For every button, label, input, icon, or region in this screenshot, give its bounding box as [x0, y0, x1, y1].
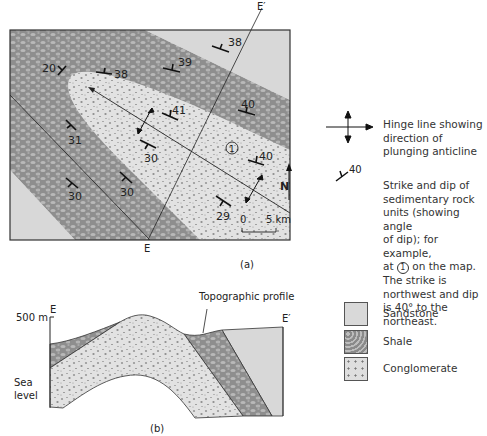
svg-text:30: 30: [144, 152, 158, 165]
map-caption: (a): [240, 259, 254, 270]
svg-text:29: 29: [216, 210, 230, 223]
legend-line: northwest and dip: [383, 288, 487, 302]
location-marker-inline: 1: [397, 262, 409, 274]
strike-dip-legend-icon: [336, 171, 348, 181]
shale-swatch: [344, 330, 368, 354]
svg-text:38: 38: [228, 36, 242, 49]
svg-text:30: 30: [68, 190, 82, 203]
strike-dip-legend-value: 40: [349, 164, 362, 175]
location-marker-label: 1: [229, 144, 235, 154]
sandstone-swatch: [344, 302, 368, 326]
legend-line: The strike is: [383, 274, 487, 288]
conglomerate-swatch: [344, 357, 368, 381]
legend-line: sedimentary rock: [383, 193, 487, 207]
legend-line: at 1 on the map.: [383, 260, 487, 274]
hinge-legend-icon: [326, 111, 373, 143]
scale-end: 5 km: [266, 214, 291, 225]
svg-text:38: 38: [114, 68, 128, 81]
section-caption: (b): [150, 423, 164, 434]
sandstone-label: Sandstone: [383, 307, 439, 321]
sea-level-label-2: level: [14, 390, 38, 401]
scale-start: 0: [240, 214, 246, 225]
north-label: N: [280, 180, 289, 193]
strike-dip-legend-text: Strike and dip of sedimentary rock units…: [383, 179, 487, 328]
svg-text:30: 30: [120, 186, 134, 199]
section-start-label: E: [144, 243, 150, 254]
elevation-label: 500 m: [16, 312, 48, 323]
shale-label: Shale: [383, 335, 412, 349]
section-end-label: E′: [257, 1, 266, 12]
sea-level-label: Sea: [14, 377, 33, 388]
hinge-line-legend-text: Hinge line showing direction of plunging…: [383, 118, 483, 159]
svg-text:41: 41: [172, 104, 186, 117]
conglomerate-label: Conglomerate: [383, 362, 457, 376]
topographic-profile-callout: Topographic profile: [198, 291, 294, 302]
section-left-label: E: [50, 304, 56, 315]
section-right-label: E′: [282, 313, 291, 324]
callout-leader: [203, 309, 207, 333]
svg-text:40: 40: [241, 98, 255, 111]
legend-line: units (showing angle: [383, 206, 487, 233]
svg-text:39: 39: [178, 56, 192, 69]
svg-text:40: 40: [259, 150, 273, 163]
svg-text:20: 20: [42, 62, 56, 75]
legend-line: Strike and dip of: [383, 179, 487, 193]
legend-line: of dip); for example,: [383, 233, 487, 260]
svg-text:31: 31: [68, 134, 82, 147]
cross-section: [50, 309, 283, 418]
